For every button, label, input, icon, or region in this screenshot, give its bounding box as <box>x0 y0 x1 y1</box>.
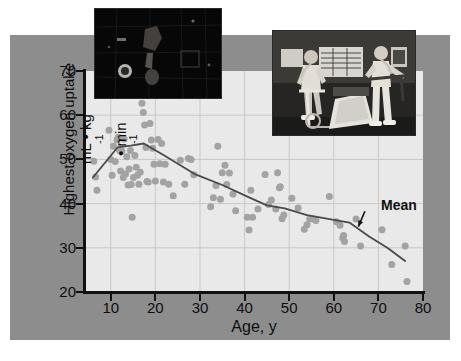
exercise-lab-photo-graphic <box>273 31 415 135</box>
x-tick-label-40: 40 <box>225 300 265 315</box>
x-tick-label-30: 30 <box>180 300 220 315</box>
figure-root: 2030405060701020304050607080 Highest oxy… <box>0 0 461 361</box>
x-tick-label-20: 20 <box>135 300 175 315</box>
dark-scene-photo-graphic <box>95 9 221 98</box>
x-tick-label-70: 70 <box>358 300 398 315</box>
x-axis-title: Age, y <box>84 318 424 336</box>
x-tick-label-80: 80 <box>403 300 443 315</box>
exercise-lab-photo <box>272 30 416 136</box>
y-axis-title-line1: Highest oxygen uptake <box>60 29 77 249</box>
x-tick-label-10: 10 <box>91 300 131 315</box>
y-tick-mark-20 <box>76 291 84 293</box>
dark-scene-photo <box>94 8 222 99</box>
x-axis-line <box>83 291 425 294</box>
x-tick-label-50: 50 <box>269 300 309 315</box>
y-axis-units-sup2: -1 <box>128 135 139 144</box>
mean-annotation-label: Mean <box>381 197 417 213</box>
y-axis-units-prefix: mL • kg <box>77 29 94 249</box>
y-tick-label-20: 20 <box>36 284 76 299</box>
y-axis-units-sup1: -1 <box>93 135 104 144</box>
x-tick-label-60: 60 <box>314 300 354 315</box>
